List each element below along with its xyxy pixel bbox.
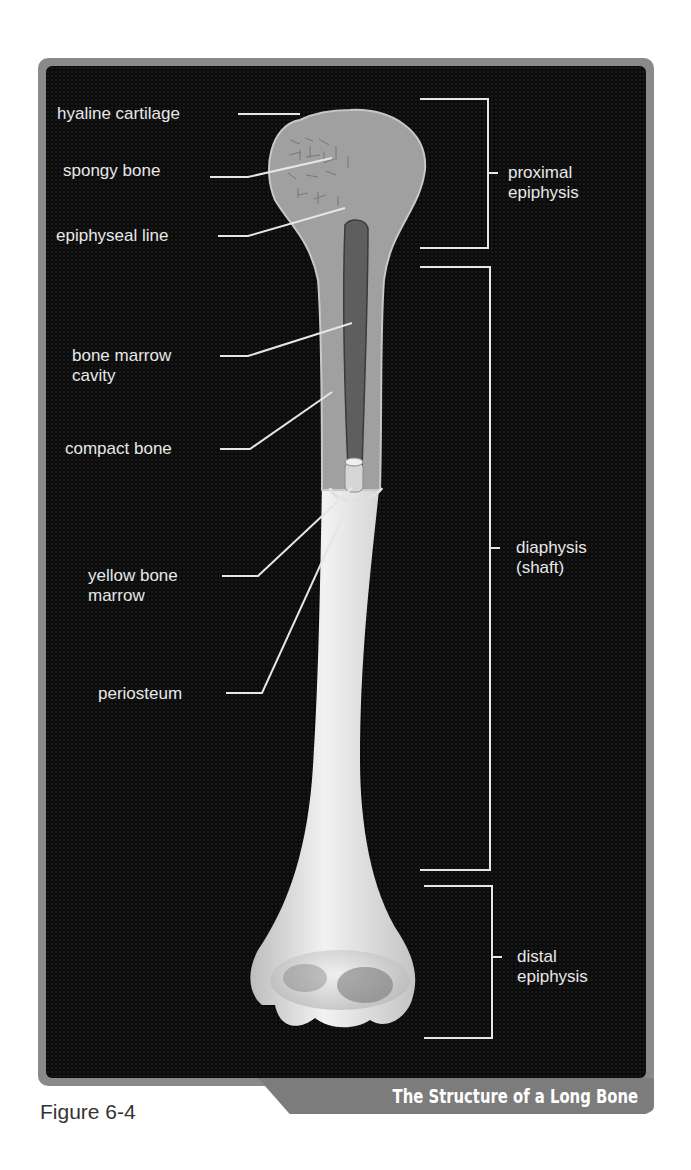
label-line-2: marrow [88,586,178,606]
bracket-diaphysis [420,267,490,870]
region-distal-epiphysis: distal epiphysis [517,947,588,987]
label-line-1: distal [517,947,588,967]
label-line-1: diaphysis [516,538,587,558]
label-line-2: cavity [72,366,171,386]
label-line-2: (shaft) [516,558,587,578]
figure-title: The Structure of a Long Bone [374,1080,638,1112]
label-hyaline-cartilage: hyaline cartilage [57,104,180,124]
distal-bone-shape [250,480,415,1027]
label-bone-marrow-cavity: bone marrow cavity [72,346,171,386]
label-spongy-bone: spongy bone [63,161,160,181]
label-line-1: yellow bone [88,566,178,586]
label-epiphyseal-line: epiphyseal line [56,226,168,246]
label-periosteum: periosteum [98,684,182,704]
leader-compact-bone [220,392,332,449]
bracket-distal [424,886,492,1038]
bracket-proximal [420,99,488,248]
label-line-2: epiphysis [508,183,579,203]
label-line-2: epiphysis [517,967,588,987]
figure-number: Figure 6-4 [40,1100,136,1124]
label-yellow-bone-marrow: yellow bone marrow [88,566,178,606]
label-line-1: bone marrow [72,346,171,366]
label-compact-bone: compact bone [65,439,172,459]
region-diaphysis: diaphysis (shaft) [516,538,587,578]
label-line-1: proximal [508,163,579,183]
region-proximal-epiphysis: proximal epiphysis [508,163,579,203]
